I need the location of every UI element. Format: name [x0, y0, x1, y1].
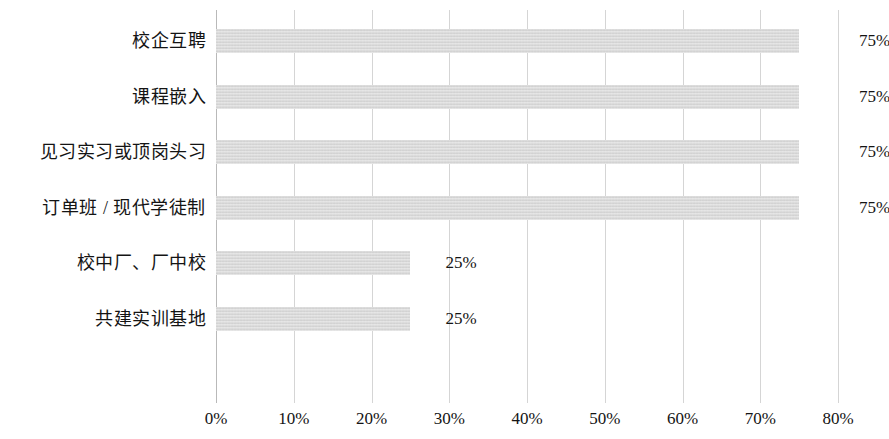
x-axis-tick-labels: 0%10%20%30%40%50%60%70%80% — [216, 406, 838, 436]
x-tick-label: 40% — [511, 406, 542, 432]
value-label: 75% — [859, 85, 889, 109]
x-tick-label: 0% — [205, 406, 228, 432]
category-axis-labels: 校企互聘课程嵌入见习实习或顶岗头习订单班 / 现代学徒制校中厂、厂中校共建实训基… — [0, 10, 206, 403]
value-label: 75% — [859, 196, 889, 220]
category-label: 订单班 / 现代学徒制 — [0, 196, 206, 220]
x-tick-label: 50% — [589, 406, 620, 432]
bar-value-labels: 75%75%75%75%25%25% — [216, 10, 889, 403]
value-label: 25% — [445, 251, 476, 275]
x-tick-label: 70% — [745, 406, 776, 432]
value-label: 75% — [859, 140, 889, 164]
value-label: 75% — [859, 29, 889, 53]
x-tick-label: 10% — [278, 406, 309, 432]
category-label: 课程嵌入 — [0, 85, 206, 109]
category-label: 校企互聘 — [0, 29, 206, 53]
x-tick-label: 60% — [667, 406, 698, 432]
category-label: 见习实习或顶岗头习 — [0, 140, 206, 164]
value-label: 25% — [445, 307, 476, 331]
bar-chart: 校企互聘课程嵌入见习实习或顶岗头习订单班 / 现代学徒制校中厂、厂中校共建实训基… — [0, 0, 889, 439]
x-tick-label: 20% — [356, 406, 387, 432]
x-tick-label: 30% — [434, 406, 465, 432]
x-tick-label: 80% — [822, 406, 853, 432]
category-label: 校中厂、厂中校 — [0, 251, 206, 275]
category-label: 共建实训基地 — [0, 307, 206, 331]
